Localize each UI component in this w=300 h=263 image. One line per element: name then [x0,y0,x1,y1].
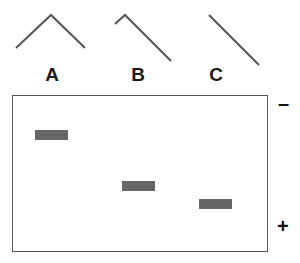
label-b: B [128,64,148,86]
band-b [122,181,155,191]
band-c [199,199,232,209]
label-c: C [206,64,226,86]
gel-box [12,95,268,252]
molecule-b-shape [115,15,171,61]
positive-pole-label: + [277,215,289,238]
band-a [35,130,68,140]
label-a: A [42,64,62,86]
molecule-c-shape [209,15,259,65]
negative-pole-label: – [278,92,289,115]
molecule-a-shape [16,15,85,48]
